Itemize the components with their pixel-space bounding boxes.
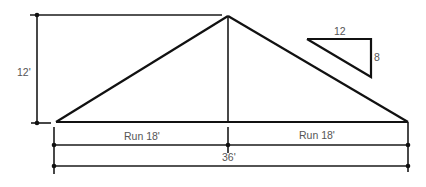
- right-run-label: Run 18': [299, 129, 335, 141]
- truss: [56, 16, 408, 122]
- run-dimensions: Run 18' Run 18' 36': [52, 122, 411, 174]
- roof-truss-diagram: 12' 12 8 Run 18' Run 18' 36': [0, 0, 426, 187]
- span-left-dot: [52, 164, 57, 169]
- run-center-dot: [226, 143, 231, 148]
- run-right-dot: [406, 143, 411, 148]
- pitch-run-label: 12: [334, 25, 346, 37]
- left-rafter: [56, 16, 228, 122]
- span-label: 36': [222, 151, 236, 163]
- rise-top-dot: [35, 13, 40, 18]
- rise-label: 12': [17, 66, 31, 78]
- left-run-label: Run 18': [124, 130, 160, 142]
- pitch-triangle-shape: [307, 39, 371, 77]
- pitch-rise-label: 8: [374, 51, 380, 63]
- span-right-dot: [406, 164, 411, 169]
- rise-bottom-dot: [35, 121, 40, 126]
- rise-dimension: 12': [17, 13, 222, 126]
- run-left-dot: [52, 143, 57, 148]
- right-rafter: [228, 16, 408, 122]
